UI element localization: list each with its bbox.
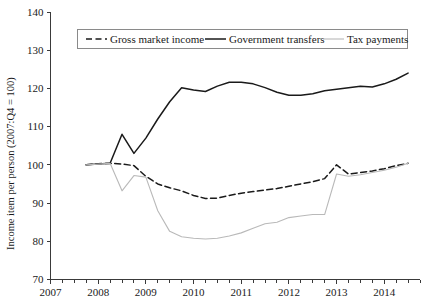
legend-label-gross-market-income: Gross market income [110, 33, 204, 45]
legend-label-tax-payments: Tax payments [347, 33, 408, 45]
legend-label-government-transfers: Government transfers [229, 33, 325, 45]
y-tick-label: 130 [27, 44, 44, 56]
x-tick-label: 2013 [326, 286, 349, 298]
chart-legend: Gross market incomeGovernment transfersT… [78, 30, 409, 49]
x-tick-label: 2008 [87, 286, 110, 298]
y-tick-label: 140 [27, 6, 44, 18]
series-line-tax-payments [86, 163, 408, 239]
y-tick-label: 70 [33, 273, 45, 285]
x-tick-label: 2010 [183, 286, 206, 298]
x-tick-label: 2014 [373, 286, 396, 298]
y-tick-label: 110 [27, 120, 44, 132]
y-tick-label: 120 [27, 82, 44, 94]
x-tick-label: 2012 [278, 286, 300, 298]
x-tick-label: 2011 [230, 286, 252, 298]
income-index-line-chart: Income item per person (2007:Q4 = 100) 7… [0, 0, 433, 307]
y-axis-title-group: Income item per person (2007:Q4 = 100) [5, 77, 17, 250]
x-tick-label: 2007 [40, 286, 63, 298]
x-tick-label: 2009 [135, 286, 158, 298]
series-line-government-transfers [86, 73, 408, 165]
series-line-gross-market-income [86, 163, 408, 198]
series-lines [86, 73, 408, 239]
y-tick-label: 90 [33, 197, 45, 209]
y-axis-ticks: 708090100110120130140 [27, 6, 51, 286]
x-axis-ticks: 20072008200920102011201220132014 [40, 280, 421, 298]
y-tick-label: 80 [33, 235, 45, 247]
y-axis-title: Income item per person (2007:Q4 = 100) [5, 77, 17, 250]
chart-figure: Income item per person (2007:Q4 = 100) 7… [0, 0, 433, 307]
y-tick-label: 100 [27, 159, 44, 171]
